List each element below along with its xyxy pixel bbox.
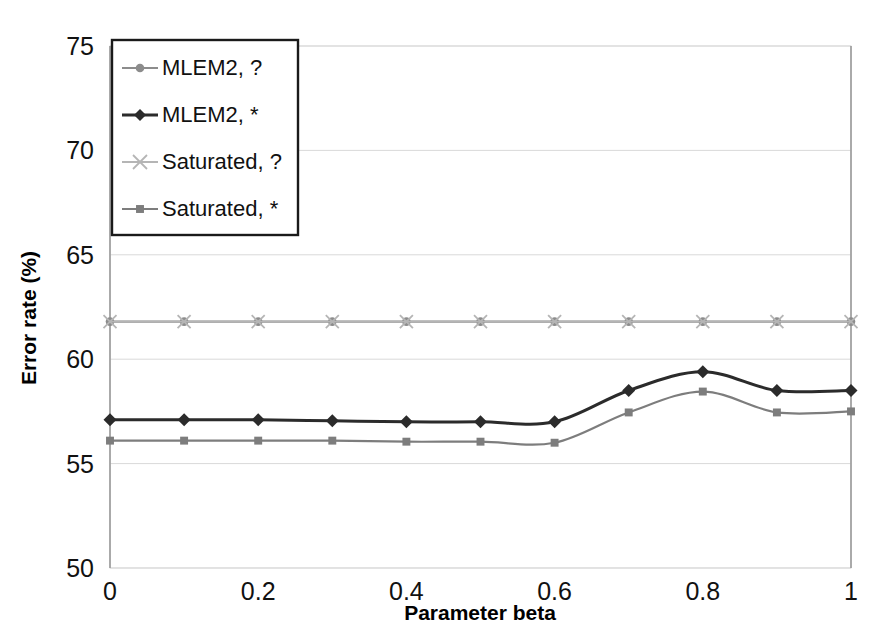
- data-point-square: [773, 408, 781, 416]
- y-tick-label: 75: [66, 32, 94, 60]
- data-point-diamond: [104, 413, 117, 426]
- y-tick-label: 65: [66, 241, 94, 269]
- legend-label: MLEM2, ?: [162, 55, 262, 80]
- line-chart: 505560657075 00.20.40.60.81 MLEM2, ?MLEM…: [0, 0, 896, 643]
- y-tick-label: 70: [66, 136, 94, 164]
- data-point-diamond: [548, 415, 561, 428]
- data-point-square: [625, 408, 633, 416]
- data-point-square: [847, 407, 855, 415]
- y-axis-title: Error rate (%): [17, 251, 40, 385]
- data-point-diamond: [178, 413, 191, 426]
- series-2: [104, 315, 858, 328]
- y-axis-ticks: 505560657075: [66, 32, 94, 582]
- data-point-diamond: [252, 413, 265, 426]
- y-tick-label: 50: [66, 554, 94, 582]
- data-point-square: [136, 205, 144, 213]
- chart-container: 505560657075 00.20.40.60.81 MLEM2, ?MLEM…: [0, 0, 896, 643]
- data-point-square: [106, 437, 114, 445]
- x-tick-label: 1: [844, 577, 858, 605]
- data-point-square: [551, 439, 559, 447]
- chart-legend[interactable]: MLEM2, ?MLEM2, *Saturated, ?Saturated, *: [112, 40, 298, 235]
- x-axis-title: Parameter beta: [404, 601, 556, 624]
- data-point-diamond: [696, 365, 709, 378]
- y-tick-label: 55: [66, 450, 94, 478]
- data-point-diamond: [622, 384, 635, 397]
- x-tick-label: 0.2: [241, 577, 276, 605]
- data-point-square: [254, 437, 262, 445]
- data-point-circle: [136, 64, 145, 73]
- data-point-diamond: [474, 415, 487, 428]
- data-series: [104, 315, 858, 447]
- legend-label: Saturated, *: [162, 196, 279, 221]
- x-tick-label: 0: [103, 577, 117, 605]
- data-point-diamond: [845, 384, 858, 397]
- y-tick-label: 60: [66, 345, 94, 373]
- data-point-diamond: [326, 414, 339, 427]
- data-point-square: [328, 437, 336, 445]
- data-point-diamond: [770, 384, 783, 397]
- data-point-square: [402, 438, 410, 446]
- series-1: [104, 365, 858, 428]
- data-point-diamond: [400, 415, 413, 428]
- data-point-square: [699, 388, 707, 396]
- legend-label: MLEM2, *: [162, 102, 259, 127]
- data-point-square: [477, 438, 485, 446]
- data-point-square: [180, 437, 188, 445]
- x-tick-label: 0.8: [685, 577, 720, 605]
- legend-label: Saturated, ?: [162, 149, 282, 174]
